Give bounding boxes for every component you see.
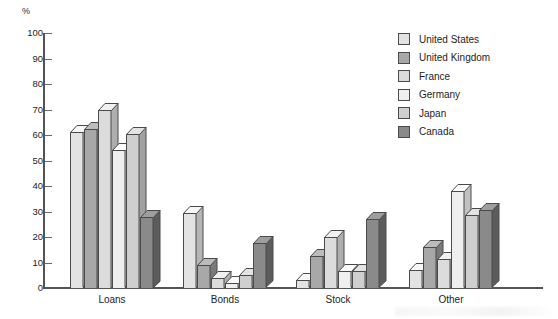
- bar: [126, 134, 140, 288]
- y-tick-label: 60: [17, 129, 43, 140]
- y-tick: 30: [0, 212, 43, 213]
- y-tick: 100: [0, 33, 43, 34]
- bar-group-bars: [296, 33, 380, 288]
- bar: [296, 280, 310, 288]
- y-tick: 10: [0, 263, 43, 264]
- legend-swatch: [398, 33, 410, 45]
- y-tick-label: 20: [17, 231, 43, 242]
- x-axis-label: Stock: [325, 294, 350, 305]
- y-tick: 20: [0, 237, 43, 238]
- y-tick-label: 80: [17, 78, 43, 89]
- y-tick-label: 0: [17, 282, 43, 293]
- y-tick-label: 50: [17, 155, 43, 166]
- legend-label: Japan: [419, 108, 446, 119]
- y-tick: 60: [0, 135, 43, 136]
- legend-item: Japan: [398, 104, 490, 123]
- y-tick: 50: [0, 161, 43, 162]
- bar: [140, 217, 154, 288]
- x-axis-label: Loans: [98, 294, 125, 305]
- legend-swatch: [398, 107, 410, 119]
- legend-label: United Kingdom: [419, 52, 490, 63]
- bar: [423, 247, 437, 288]
- bar: [98, 110, 112, 289]
- y-tick-label: 70: [17, 104, 43, 115]
- bar: [225, 283, 239, 288]
- legend-item: Canada: [398, 123, 490, 142]
- y-tick: 70: [0, 110, 43, 111]
- bar: [183, 213, 197, 288]
- y-tick-label: 10: [17, 257, 43, 268]
- bar: [366, 219, 380, 288]
- legend-item: France: [398, 67, 490, 86]
- y-tick-label: 100: [17, 27, 43, 38]
- bar: [451, 191, 465, 288]
- bar: [310, 256, 324, 288]
- y-tick-label: 30: [17, 206, 43, 217]
- x-axis-label: Other: [438, 294, 463, 305]
- y-tick-label: 40: [17, 180, 43, 191]
- y-tick: 40: [0, 186, 43, 187]
- y-tick: 0: [0, 288, 43, 289]
- x-axis-label: Bonds: [211, 294, 239, 305]
- legend-label: France: [419, 71, 450, 82]
- legend-item: Germany: [398, 86, 490, 105]
- bar: [70, 132, 84, 288]
- bar: [253, 243, 267, 288]
- y-tick: 80: [0, 84, 43, 85]
- bar: [112, 150, 126, 288]
- bar: [324, 237, 338, 288]
- bar-group-bars: [70, 33, 154, 288]
- legend-swatch: [398, 126, 410, 138]
- legend-swatch: [398, 70, 410, 82]
- y-tick: 90: [0, 59, 43, 60]
- legend-label: United States: [419, 34, 479, 45]
- bar: [239, 275, 253, 288]
- bar-chart: % 1009080706050403020100 LoansBondsStock…: [0, 0, 558, 319]
- scan-artifact: [395, 307, 555, 316]
- bar: [409, 270, 423, 288]
- bar: [197, 265, 211, 288]
- bar: [465, 215, 479, 288]
- bar: [211, 278, 225, 288]
- legend-swatch: [398, 52, 410, 64]
- bar-group-bars: [183, 33, 267, 288]
- legend-item: United States: [398, 30, 490, 49]
- legend-label: Canada: [419, 126, 454, 137]
- legend-item: United Kingdom: [398, 49, 490, 68]
- bar: [338, 271, 352, 288]
- legend-swatch: [398, 89, 410, 101]
- bar: [479, 210, 493, 288]
- bar: [84, 129, 98, 288]
- y-tick-label: 90: [17, 53, 43, 64]
- bar: [437, 259, 451, 288]
- bar: [352, 271, 366, 288]
- y-axis-unit-label: %: [22, 6, 30, 16]
- legend-label: Germany: [419, 89, 460, 100]
- legend: United StatesUnited KingdomFranceGermany…: [398, 30, 490, 141]
